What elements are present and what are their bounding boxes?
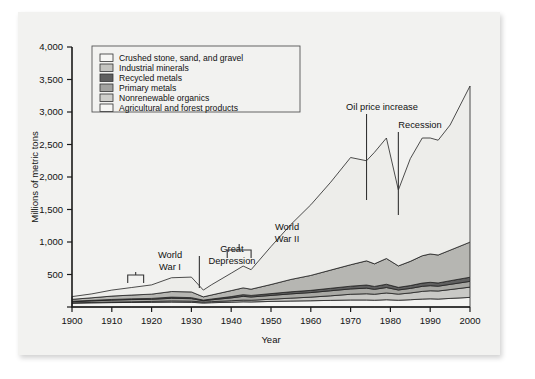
legend-swatch <box>100 104 113 112</box>
legend-label: Primary metals <box>119 83 176 93</box>
y-tick-label: 1,000 <box>39 236 63 247</box>
y-axis-title: Millions of metric tons <box>29 131 40 223</box>
legend-swatch <box>100 64 113 72</box>
y-tick-label: 1,500 <box>39 204 63 215</box>
x-tick-label: 1910 <box>101 315 122 326</box>
annotation-label: War I <box>159 262 181 272</box>
x-tick-label: 1950 <box>260 315 281 326</box>
y-tick-label: 2,000 <box>39 171 63 182</box>
legend-swatch <box>100 84 113 92</box>
x-axis-title: Year <box>261 334 280 345</box>
annotation-label: Depression <box>208 256 255 266</box>
legend-label: Industrial minerals <box>119 63 189 73</box>
x-tick-label: 1970 <box>340 315 361 326</box>
annotation-label: Oil price increase <box>346 102 418 112</box>
y-tick-label: 4,000 <box>39 41 63 52</box>
x-tick-label: 1980 <box>380 315 401 326</box>
annotation-label: World <box>275 222 299 232</box>
legend-label: Recycled metals <box>119 73 182 83</box>
y-tick-label: 500 <box>47 269 63 280</box>
legend-label: Crushed stone, sand, and gravel <box>119 53 243 63</box>
legend-swatch <box>100 94 113 102</box>
x-tick-label: 1960 <box>300 315 321 326</box>
annotation-label: War II <box>275 234 299 244</box>
legend-label: Nonrenewable organics <box>119 93 209 103</box>
x-tick-label: 1900 <box>61 315 82 326</box>
annotation-label: World <box>158 250 182 260</box>
x-tick-label: 1990 <box>420 315 441 326</box>
x-tick-label: 1930 <box>181 315 202 326</box>
chart-stage: 5001,0001,5002,0002,5003,0003,5004,00019… <box>0 0 535 379</box>
x-tick-label: 2000 <box>459 315 480 326</box>
x-tick-label: 1940 <box>221 315 242 326</box>
annotation-label: Great <box>220 244 244 254</box>
y-tick-label: 2,500 <box>39 139 63 150</box>
chart-legend: Crushed stone, sand, and gravelIndustria… <box>92 46 300 113</box>
y-tick-label: 3,500 <box>39 74 63 85</box>
x-tick-label: 1920 <box>141 315 162 326</box>
legend-label: Agricultural and forest products <box>119 103 238 113</box>
legend-swatch <box>100 54 113 62</box>
legend-swatch <box>100 74 113 82</box>
annotation-label: Recession <box>398 120 441 130</box>
y-tick-label: 3,000 <box>39 106 63 117</box>
stacked-area-chart: 5001,0001,5002,0002,5003,0003,5004,00019… <box>0 0 535 379</box>
